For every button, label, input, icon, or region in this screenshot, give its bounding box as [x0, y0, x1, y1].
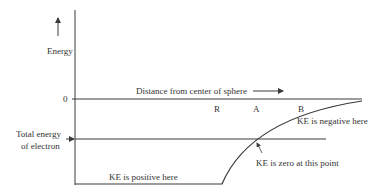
zero-label: 0 — [63, 94, 68, 104]
ke-zero-annotation: KE is zero at this point — [256, 158, 339, 168]
ke-negative-annotation: KE is negative here — [297, 116, 368, 126]
total-energy-label-line2: of electron — [21, 141, 60, 151]
energy-diagram: Energy 0 Distance from center of sphere … — [0, 0, 379, 196]
x-axis-label: Distance from center of sphere — [136, 86, 247, 96]
ke-zero-pointer-icon — [257, 143, 262, 153]
total-energy-label-line1: Total energy — [16, 129, 61, 139]
point-label-r: R — [214, 104, 220, 114]
y-axis-label: Energy — [47, 46, 73, 56]
point-label-a: A — [253, 104, 260, 114]
ke-positive-annotation: KE is positive here — [109, 172, 178, 182]
point-label-b: B — [298, 104, 304, 114]
